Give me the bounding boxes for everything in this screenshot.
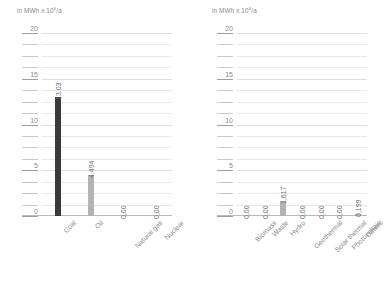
y-axis-tick-minor	[217, 147, 233, 148]
gridline-major	[42, 33, 172, 34]
y-axis-tick-minor	[22, 44, 38, 45]
y-axis-tick-minor	[217, 44, 233, 45]
unit-caption-left-text: in MWh x 10	[17, 7, 54, 14]
y-axis-tick-major	[22, 33, 38, 34]
y-axis-tick-minor	[22, 102, 38, 103]
y-axis-tick-minor	[22, 159, 38, 160]
y-axis-tick-minor	[217, 113, 233, 114]
gridline-minor	[42, 67, 172, 68]
gridline-minor	[42, 90, 172, 91]
x-axis-category-label: Coal	[62, 219, 77, 234]
x-axis-category-label: Oil	[93, 219, 104, 230]
x-axis-baseline	[22, 215, 172, 216]
y-axis-tick-major	[217, 216, 233, 217]
y-axis-label: 5	[22, 162, 38, 169]
gridline-minor	[237, 90, 367, 91]
y-axis-tick-minor	[217, 182, 233, 183]
y-axis-tick-minor	[22, 182, 38, 183]
y-axis-tick-minor	[217, 136, 233, 137]
bar-value-label: 0,00	[336, 205, 343, 219]
y-axis-tick-minor	[22, 56, 38, 57]
y-axis-tick-major	[217, 170, 233, 171]
bar-value-label: 0,00	[317, 205, 324, 219]
y-axis-tick-minor	[217, 102, 233, 103]
gridline-minor	[42, 113, 172, 114]
bar-value-label: 0,00	[243, 205, 250, 219]
y-axis-tick-major	[22, 79, 38, 80]
gridline-minor	[237, 67, 367, 68]
gridline-minor	[42, 102, 172, 103]
gridline-minor	[237, 159, 367, 160]
y-axis-tick-minor	[217, 67, 233, 68]
y-axis-tick-minor	[22, 67, 38, 68]
gridline-major	[42, 125, 172, 126]
gridline-minor	[42, 159, 172, 160]
chart-panel-fossil: in MWh x 106/a 0510152013.03Coal4.494Oil…	[0, 0, 196, 284]
y-axis-tick-major	[217, 79, 233, 80]
gridline-major	[237, 33, 367, 34]
gridline-minor	[237, 136, 367, 137]
gridline-major	[237, 79, 367, 80]
gridline-major	[237, 125, 367, 126]
gridline-minor	[237, 193, 367, 194]
chart-page: in MWh x 106/a 0510152013.03Coal4.494Oil…	[0, 0, 391, 284]
bar-value-label: 0,00	[120, 205, 127, 219]
y-axis-tick-major	[217, 125, 233, 126]
bar-value-label: 0,00	[261, 205, 268, 219]
gridline-minor	[237, 113, 367, 114]
y-axis-label: 0	[22, 208, 38, 215]
gridline-major	[237, 170, 367, 171]
y-axis-tick-minor	[22, 193, 38, 194]
gridline-minor	[237, 102, 367, 103]
y-axis-tick-major	[217, 33, 233, 34]
unit-caption-right-suffix: /a	[251, 7, 257, 14]
y-axis-label: 20	[22, 25, 38, 32]
y-axis-label: 15	[22, 70, 38, 77]
y-axis-label: 20	[217, 25, 233, 32]
gridline-major	[42, 170, 172, 171]
bar-value-label: 1,617	[280, 187, 287, 205]
plot-area-right: 051015200,00Biomass0,00Waste1,617Hydro0,…	[237, 33, 367, 216]
x-axis-baseline	[217, 215, 367, 216]
plot-area-left: 0510152013.03Coal4.494Oil0,00Natural gas…	[42, 33, 172, 216]
unit-caption-right-text: in MWh x 10	[212, 7, 249, 14]
y-axis-tick-minor	[22, 147, 38, 148]
y-axis-label: 10	[217, 116, 233, 123]
y-axis-tick-minor	[217, 193, 233, 194]
gridline-minor	[42, 182, 172, 183]
y-axis-label: 15	[217, 70, 233, 77]
y-axis-label: 10	[22, 116, 38, 123]
bar	[88, 175, 94, 216]
bar-value-label: 4.494	[87, 160, 94, 178]
y-axis-tick-minor	[22, 136, 38, 137]
gridline-minor	[42, 136, 172, 137]
bar-value-label: 13.03	[55, 82, 62, 100]
gridline-minor	[42, 193, 172, 194]
gridline-major	[42, 79, 172, 80]
gridline-minor	[237, 182, 367, 183]
gridline-minor	[237, 44, 367, 45]
y-axis-label: 5	[217, 162, 233, 169]
unit-caption-left: in MWh x 106/a	[17, 7, 62, 14]
gridline-minor	[42, 44, 172, 45]
y-axis-tick-minor	[217, 90, 233, 91]
gridline-minor	[237, 56, 367, 57]
y-axis-tick-major	[22, 216, 38, 217]
y-axis-label: 0	[217, 208, 233, 215]
x-axis-category-label: Nuclear	[163, 219, 185, 241]
bar-value-label: 0,199	[354, 200, 361, 218]
bar-value-label: 0,00	[299, 205, 306, 219]
y-axis-tick-minor	[217, 205, 233, 206]
y-axis-tick-minor	[22, 90, 38, 91]
bar-value-label: 0,00	[152, 205, 159, 219]
chart-panel-renewable: in MWh x 106/a 051015200,00Biomass0,00Wa…	[195, 0, 391, 284]
x-axis-category-label: Natural gas	[134, 219, 164, 249]
y-axis-tick-major	[22, 125, 38, 126]
y-axis-tick-major	[22, 170, 38, 171]
unit-caption-left-suffix: /a	[56, 7, 62, 14]
bar	[55, 97, 61, 216]
x-axis-category-label: Hydro	[289, 219, 307, 237]
gridline-minor	[42, 56, 172, 57]
y-axis-tick-minor	[22, 205, 38, 206]
unit-caption-right: in MWh x 106/a	[212, 7, 257, 14]
